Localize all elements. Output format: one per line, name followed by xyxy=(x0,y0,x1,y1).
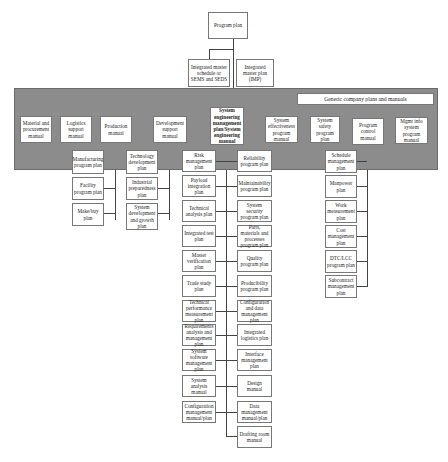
manual-box: System safety program plan xyxy=(310,116,340,143)
seng-left-child-box: Integrated test plan xyxy=(182,225,216,247)
seng-right-child-box: Quality program plan xyxy=(237,250,272,272)
program-control-child-box: Work measurement plan xyxy=(325,200,357,223)
manual-box: Material and procurement manual xyxy=(20,116,52,143)
program-plan-box: Program plan xyxy=(208,12,248,39)
seng-manual-box: System engineering management plan/Syste… xyxy=(210,107,244,145)
connector xyxy=(216,360,237,361)
seng-left-child-box: System software management plan xyxy=(182,349,216,371)
manual-box: Production manual xyxy=(100,116,132,143)
seng-left-child-box: Risk management plan xyxy=(182,150,216,172)
seng-left-child-box: Technical analysis plan xyxy=(182,200,216,222)
manual-box: System effectiveness program manual xyxy=(265,116,298,143)
connector xyxy=(158,213,169,214)
connector xyxy=(216,186,237,187)
program-control-child-box: Schedule management plan xyxy=(325,150,357,173)
seng-left-child-box: Master verification plan xyxy=(182,250,216,272)
connector xyxy=(216,412,237,413)
development-child-box: Technology development plan xyxy=(126,150,158,174)
connector xyxy=(357,211,367,212)
connector xyxy=(216,386,237,387)
seng-left-child-box: Technical performance measurement plan xyxy=(182,300,216,322)
manual-box: Development support manual xyxy=(153,116,187,143)
seng-right-child-box: Design manual xyxy=(237,375,272,397)
seng-right-child-box: Configuration and data management plan xyxy=(237,300,272,322)
connector xyxy=(357,186,367,187)
seng-right-child-box: Drafting room manual xyxy=(237,426,272,448)
program-control-child-box: Subcontract management plan xyxy=(325,275,357,298)
development-child-box: System development and growth plan xyxy=(126,203,158,230)
connector xyxy=(357,286,367,287)
seng-left-child-box: Payload integration plan xyxy=(182,175,216,197)
integrated-master-schedule-box: Integrated master schedule or SEMS and S… xyxy=(188,59,230,87)
seng-right-child-box: Producibility program plan xyxy=(237,275,272,297)
connector xyxy=(209,49,233,50)
development-child-box: Industrial preparedness plan xyxy=(126,177,158,200)
connector xyxy=(216,286,237,287)
manual-box: Mgmt info system program manual xyxy=(395,117,428,144)
connector xyxy=(158,188,169,189)
connector xyxy=(216,211,237,212)
connector xyxy=(226,150,227,436)
connector xyxy=(357,236,367,237)
production-child-box: Manufacturing program plan xyxy=(72,150,104,174)
manual-box: Logistics support manual xyxy=(60,116,92,143)
production-child-box: Facility program plan xyxy=(72,177,104,200)
connector xyxy=(104,188,115,189)
seng-left-child-box: Trade study plan xyxy=(182,275,216,297)
manual-box: Program control manual xyxy=(352,118,384,145)
production-child-box: Make/buy plan xyxy=(72,203,104,226)
seng-right-child-box: Data management manual/plan xyxy=(237,401,272,423)
integrated-master-plan-box: Integrated master plan (IMP) xyxy=(236,59,274,87)
connector xyxy=(209,49,210,59)
seng-left-child-box: System analysis manual xyxy=(182,375,216,397)
seng-right-child-box: Reliability program plan xyxy=(237,150,272,172)
connector xyxy=(357,261,367,262)
connector xyxy=(226,436,237,437)
seng-left-child-box: Configuration management manual/plan xyxy=(182,401,216,423)
program-control-child-box: DTC/LCC program plan xyxy=(325,250,357,273)
seng-left-child-box: Requirements analysis and management pla… xyxy=(182,324,216,346)
program-control-child-box: Manpower plan xyxy=(325,175,357,198)
connector xyxy=(216,311,237,312)
band-label: Generic company plans and manuals xyxy=(297,93,434,105)
seng-right-child-box: Parts, materials and processes program p… xyxy=(237,225,272,247)
connector xyxy=(216,236,237,237)
seng-right-child-box: Maintainability program plan xyxy=(237,175,272,197)
connector xyxy=(104,213,115,214)
connector xyxy=(216,335,237,336)
seng-right-child-box: Integrated logistics plan xyxy=(237,324,272,346)
connector xyxy=(216,161,237,162)
seng-right-child-box: System security program plan xyxy=(237,200,272,222)
connector xyxy=(233,39,234,88)
seng-right-child-box: Interface management plan xyxy=(237,349,272,371)
connector xyxy=(357,161,367,162)
program-control-child-box: Cost management plan xyxy=(325,225,357,248)
connector xyxy=(216,261,237,262)
